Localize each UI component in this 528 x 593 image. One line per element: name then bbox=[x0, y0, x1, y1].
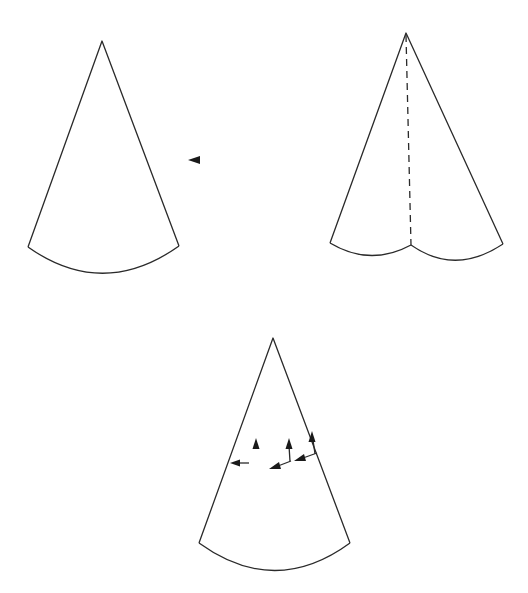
arrow-up-icon bbox=[253, 438, 260, 449]
arrow-down-left-icon bbox=[269, 461, 291, 469]
cone-plain-sides bbox=[28, 41, 179, 247]
cone-folded-dashed-fold bbox=[406, 35, 411, 245]
cone-folded-left-lobe bbox=[330, 243, 411, 256]
arrow-up-icon bbox=[286, 438, 293, 461]
arrow-down-left-icon bbox=[294, 453, 317, 461]
cone-plain-base-arc bbox=[28, 246, 179, 273]
cone-folded bbox=[330, 33, 503, 260]
arrow-left-icon bbox=[230, 460, 249, 467]
cone-diagram bbox=[0, 0, 528, 593]
cone-arrows-sides bbox=[199, 338, 350, 543]
cone-folded-right-lobe bbox=[411, 244, 503, 260]
cone-arrows-base-arc bbox=[199, 543, 350, 571]
cone-arrows bbox=[199, 338, 350, 571]
cone-folded-sides bbox=[330, 33, 503, 244]
triangle-left-icon bbox=[188, 156, 200, 164]
cone-plain bbox=[28, 41, 179, 273]
